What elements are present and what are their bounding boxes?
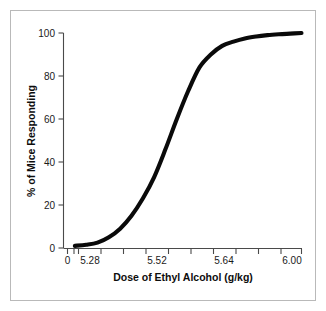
x-tick-label-552: 5.52 — [147, 255, 167, 266]
x-tick-label-0: 0 — [65, 255, 71, 266]
y-axis-ticks — [59, 33, 64, 248]
dose-response-curve — [75, 33, 302, 246]
y-tick-label-60: 60 — [44, 114, 56, 125]
x-axis-ticks — [68, 249, 302, 255]
x-tick-label-528: 5.28 — [80, 255, 100, 266]
y-tick-label-100: 100 — [38, 28, 55, 39]
x-axis-title: Dose of Ethyl Alcohol (g/kg) — [113, 271, 253, 283]
dose-response-chart: 100 80 60 40 20 0 % of Mice Responding 0… — [0, 0, 326, 311]
y-tick-label-40: 40 — [44, 157, 56, 168]
y-tick-label-0: 0 — [49, 243, 55, 254]
x-tick-label-600: 6.00 — [282, 255, 302, 266]
y-tick-label-80: 80 — [44, 71, 56, 82]
figure-root: 100 80 60 40 20 0 % of Mice Responding 0… — [0, 0, 326, 311]
y-tick-label-20: 20 — [44, 200, 56, 211]
x-tick-label-564: 5.64 — [214, 255, 234, 266]
y-axis-title: % of Mice Responding — [25, 85, 37, 197]
